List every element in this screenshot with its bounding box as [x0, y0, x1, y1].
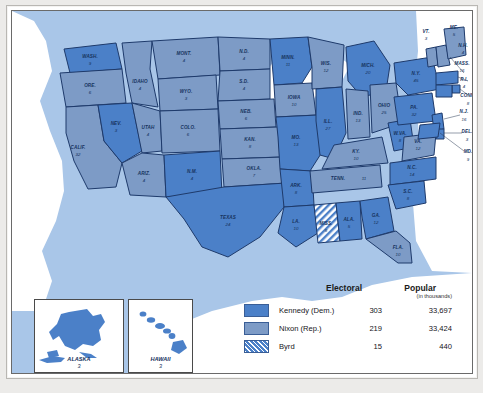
- state-votes-mo: 13: [294, 142, 299, 147]
- state-label-utah: UTAH: [142, 125, 155, 130]
- kennedy-swatch: [244, 304, 269, 317]
- state-votes-calif: 32: [76, 152, 81, 157]
- legend-label-kennedy: Kennedy (Dem.): [269, 306, 338, 315]
- state-votes-ill: 27: [325, 126, 331, 131]
- state-label-tenn: TENN.: [331, 176, 345, 181]
- state-label-md: MD.: [464, 149, 472, 154]
- state-label-va: VA.: [414, 139, 422, 144]
- state-votes-mass: 16: [460, 68, 465, 73]
- state-label-sc: S.C.: [403, 189, 412, 194]
- legend-popular-kennedy: 33,697: [382, 306, 452, 315]
- inset-alaska-label: ALASKA: [35, 356, 123, 362]
- state-label-pa: PA.: [410, 105, 418, 110]
- legend-electoral-kennedy: 303: [338, 306, 382, 315]
- state-votes-tenn: 11: [362, 176, 367, 181]
- state-label-la: LA.: [292, 219, 300, 224]
- state-votes-ky: 10: [354, 156, 359, 161]
- state-label-del: DEL.: [462, 129, 472, 134]
- state-votes-minn: 11: [286, 62, 291, 67]
- legend-label-nixon: Nixon (Rep.): [269, 324, 338, 333]
- state-label-nj: N.J.: [460, 109, 469, 114]
- state-votes-ind: 13: [356, 118, 361, 123]
- inset-alaska-votes: 3: [35, 363, 123, 369]
- legend-header-electoral: Electoral: [304, 283, 362, 293]
- state-votes-la: 10: [294, 226, 299, 231]
- state-label-mich: MICH.: [361, 63, 375, 68]
- state-label-ri: R.I.: [460, 77, 468, 82]
- legend-electoral-byrd: 15: [338, 342, 382, 351]
- state-label-me: ME.: [450, 25, 458, 30]
- state-label-minn: MINN.: [281, 55, 295, 60]
- state-label-nev: NEV.: [111, 121, 122, 126]
- state-label-ark: ARK.: [289, 183, 302, 188]
- legend-header-row: Electoral Popular: [244, 283, 452, 293]
- inset-hawaii-label: HAWAII: [129, 356, 192, 362]
- state-label-ny: N.Y.: [412, 71, 421, 76]
- state-votes-fla: 10: [396, 252, 401, 257]
- state-label-mass: MASS.: [454, 61, 469, 66]
- map-frame: WASH. 9 ORE. 6 IDAHO 4 MONT. 4 WYO. 3 NE…: [11, 10, 473, 374]
- state-label-wis: WIS.: [321, 61, 331, 66]
- state-label-iowa: IOWA: [288, 95, 301, 100]
- state-votes-pa: 32: [412, 112, 417, 117]
- nixon-swatch: [244, 322, 269, 335]
- state-label-mo: MO.: [292, 135, 301, 140]
- state-label-texas: TEXAS: [220, 215, 237, 220]
- state-label-ohio: OHIO: [378, 103, 390, 108]
- state-label-okla: OKLA.: [247, 166, 262, 171]
- state-label-wva: W.VA.: [393, 131, 406, 136]
- state-label-vt: VT.: [422, 29, 429, 34]
- state-label-nh: N.H.: [458, 43, 468, 48]
- state-label-ala: ALA.: [342, 217, 354, 222]
- state-label-wash: WASH.: [82, 54, 98, 59]
- state-votes-texas: 24: [225, 222, 231, 227]
- map-legend: Electoral Popular (in thousands) Kennedy…: [244, 283, 452, 353]
- legend-header-popular: Popular: [362, 283, 436, 293]
- legend-popular-units: (in thousands): [378, 293, 452, 299]
- state-label-miss: MISS.: [319, 221, 332, 226]
- state-label-conn: CONN.: [460, 93, 472, 98]
- legend-label-byrd: Byrd: [269, 342, 338, 351]
- state-votes-nj: 16: [462, 117, 467, 122]
- state-label-ga: GA.: [372, 213, 380, 218]
- state-votes-iowa: 10: [292, 102, 297, 107]
- state-label-ariz: ARIZ.: [137, 171, 151, 176]
- state-label-nd: N.D.: [239, 49, 249, 54]
- state-label-fla: FLA.: [393, 245, 404, 250]
- legend-row-nixon: Nixon (Rep.) 219 33,424: [244, 322, 452, 335]
- state-label-ky: KY.: [352, 149, 360, 154]
- legend-row-byrd: Byrd 15 440: [244, 340, 452, 353]
- legend-popular-subnote: (in thousands): [244, 293, 452, 299]
- state-label-wyo: WYO.: [180, 89, 193, 94]
- state-votes-ohio: 25: [381, 110, 387, 115]
- legend-popular-nixon: 33,424: [382, 324, 452, 333]
- legend-row-kennedy: Kennedy (Dem.) 303 33,697: [244, 304, 452, 317]
- state-label-idaho: IDAHO: [132, 79, 148, 84]
- state-label-kan: KAN.: [244, 137, 256, 142]
- state-label-nc: N.C.: [407, 165, 417, 170]
- state-label-sd: S.D.: [239, 79, 248, 84]
- state-votes-nc: 14: [410, 172, 415, 177]
- state-label-ill: ILL.: [324, 119, 333, 124]
- map-canvas: WASH. 9 ORE. 6 IDAHO 4 MONT. 4 WYO. 3 NE…: [12, 11, 472, 373]
- state-label-ore: ORE.: [84, 83, 96, 88]
- state-label-ind: IND.: [353, 111, 363, 116]
- state-votes-ga: 12: [374, 220, 379, 225]
- legend-popular-byrd: 440: [382, 342, 452, 351]
- inset-alaska: ALASKA 3: [34, 299, 124, 373]
- state-votes-ny: 45: [414, 78, 419, 83]
- legend-electoral-nixon: 219: [338, 324, 382, 333]
- election-map-page: WASH. 9 ORE. 6 IDAHO 4 MONT. 4 WYO. 3 NE…: [0, 0, 483, 393]
- state-label-mont: MONT.: [177, 51, 192, 56]
- map-plate: WASH. 9 ORE. 6 IDAHO 4 MONT. 4 WYO. 3 NE…: [6, 5, 478, 379]
- state-label-colo: COLO.: [180, 125, 195, 130]
- state-label-nm: N.M.: [187, 169, 197, 174]
- state-votes-wis: 12: [324, 68, 329, 73]
- inset-hawaii: HAWAII 3: [128, 299, 193, 373]
- state-label-neb: NEB.: [240, 109, 251, 114]
- state-votes-mich: 20: [365, 70, 371, 75]
- state-votes-va: 12: [416, 146, 421, 151]
- inset-hawaii-votes: 3: [129, 363, 192, 369]
- state-label-calif: CALIF.: [71, 145, 86, 150]
- byrd-swatch: [244, 340, 269, 353]
